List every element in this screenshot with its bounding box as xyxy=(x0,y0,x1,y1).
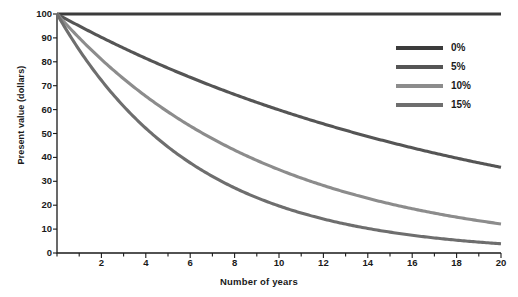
present-value-line-chart: 1009080706050403020100 2468101214161820 … xyxy=(0,0,518,297)
y-axis-tick-label: 50 xyxy=(22,129,52,139)
legend-item: 0% xyxy=(396,38,514,57)
y-axis-tick-label: 0 xyxy=(22,248,52,258)
y-axis-tick-label: 90 xyxy=(22,33,52,43)
x-axis-tick-label: 2 xyxy=(86,258,116,268)
y-axis-tick-label: 70 xyxy=(22,81,52,91)
y-axis-tick-label: 20 xyxy=(22,200,52,210)
x-axis-tick-label: 18 xyxy=(442,258,472,268)
legend-color-swatch xyxy=(396,84,443,88)
legend-item: 15% xyxy=(396,95,514,114)
y-axis-tick-label: 60 xyxy=(22,105,52,115)
x-axis-tick-label: 6 xyxy=(175,258,205,268)
chart-legend: 0%5%10%15% xyxy=(396,38,514,114)
legend-color-swatch xyxy=(396,65,443,69)
legend-item: 5% xyxy=(396,57,514,76)
y-axis-title: Present value (dollars) xyxy=(16,30,26,200)
legend-color-swatch xyxy=(396,46,443,50)
x-axis-tick-label: 4 xyxy=(131,258,161,268)
y-axis-tick-label: 100 xyxy=(22,9,52,19)
x-axis-tick-labels: 2468101214161820 xyxy=(57,258,501,272)
x-axis-tick-label: 14 xyxy=(353,258,383,268)
legend-item-label: 10% xyxy=(451,81,471,91)
x-axis-tick-label: 20 xyxy=(486,258,516,268)
x-axis-tick-label: 8 xyxy=(220,258,250,268)
legend-color-swatch xyxy=(396,103,443,107)
x-axis-tick-label: 12 xyxy=(308,258,338,268)
y-axis-tick-label: 10 xyxy=(22,224,52,234)
x-axis-tick-label: 10 xyxy=(264,258,294,268)
y-axis-tick-label: 30 xyxy=(22,177,52,187)
legend-item-label: 0% xyxy=(451,43,465,53)
y-axis-tick-label: 40 xyxy=(22,153,52,163)
legend-item: 10% xyxy=(396,76,514,95)
y-axis-tick-label: 80 xyxy=(22,57,52,67)
x-axis-tick-label: 16 xyxy=(397,258,427,268)
legend-item-label: 5% xyxy=(451,62,465,72)
x-axis-title: Number of years xyxy=(0,276,518,287)
legend-item-label: 15% xyxy=(451,100,471,110)
